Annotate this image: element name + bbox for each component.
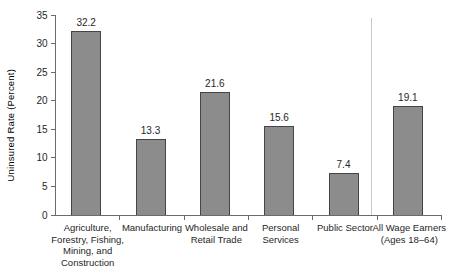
y-axis-tick-label: 15 [20, 124, 48, 135]
bar [329, 173, 359, 215]
plot-area: 0510152025303532.2Agriculture, Forestry,… [0, 0, 455, 276]
bar [136, 139, 166, 215]
bar-value-label: 13.3 [129, 125, 173, 136]
y-axis-tick [51, 186, 56, 187]
y-axis-tick [51, 129, 56, 130]
y-axis-tick-label: 20 [20, 95, 48, 106]
bar [200, 92, 230, 215]
y-axis-tick [51, 72, 56, 73]
bar-value-label: 7.4 [322, 159, 366, 170]
y-axis-tick [51, 157, 56, 158]
bar-value-label: 21.6 [193, 78, 237, 89]
y-axis-tick [51, 43, 56, 44]
bar [264, 126, 294, 215]
x-axis-category-label: All Wage Earners (Ages 18–64) [367, 222, 451, 245]
y-axis-tick-label: 25 [20, 67, 48, 78]
bar-value-label: 32.2 [64, 17, 108, 28]
y-axis-tick [51, 100, 56, 101]
y-axis-tick-label: 5 [20, 181, 48, 192]
y-axis-tick-label: 30 [20, 38, 48, 49]
y-axis-tick [51, 15, 56, 16]
x-axis-tick [184, 216, 185, 220]
x-axis-tick [119, 216, 120, 220]
bar-value-label: 15.6 [257, 112, 301, 123]
y-axis-tick-label: 10 [20, 152, 48, 163]
bar-chart: Uninsured Rate (Percent) 051015202530353… [0, 0, 455, 276]
series-separator-line [371, 18, 372, 215]
x-axis-tick [441, 216, 442, 220]
bar-value-label: 19.1 [386, 92, 430, 103]
x-axis-tick [312, 216, 313, 220]
x-axis-tick [248, 216, 249, 220]
bar [71, 31, 101, 215]
y-axis-tick-label: 0 [20, 210, 48, 221]
y-axis-tick-label: 35 [20, 10, 48, 21]
x-axis-tick [377, 216, 378, 220]
bar [393, 106, 423, 215]
